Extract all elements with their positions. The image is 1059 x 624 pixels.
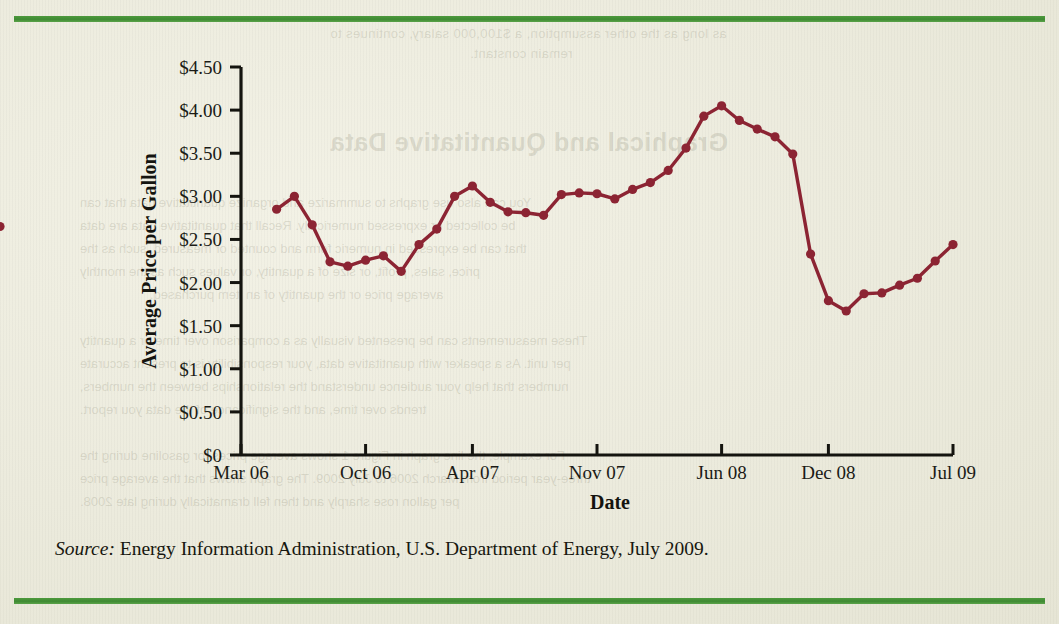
y-tick-label: $3.50 (179, 143, 222, 164)
data-point-marker (503, 207, 512, 216)
data-point-marker (486, 198, 495, 207)
data-point-marker (432, 225, 441, 234)
data-point-marker (0, 222, 5, 231)
data-point-marker (397, 267, 406, 276)
y-tick-label: $4.50 (179, 57, 222, 78)
y-axis-title: Average Price per Gallon (138, 153, 161, 368)
data-point-marker (343, 262, 352, 271)
data-point-marker (450, 192, 459, 201)
y-axis: $0$0.50$1.00$1.50$2.00$2.50$3.00$3.50$4.… (179, 57, 241, 466)
y-tick-label: $4.00 (179, 100, 222, 121)
data-point-marker (681, 143, 690, 152)
data-point-marker (557, 190, 566, 199)
data-point-marker (610, 194, 619, 203)
data-point-marker (379, 251, 388, 260)
data-point-marker (539, 211, 548, 220)
data-point-marker (948, 240, 957, 249)
y-tick-label: $1.00 (179, 359, 222, 380)
data-point-marker (664, 166, 673, 175)
data-point-marker (717, 101, 726, 110)
line-chart-figure: $0$0.50$1.00$1.50$2.00$2.50$3.00$3.50$4.… (0, 0, 1059, 624)
data-point-marker (290, 192, 299, 201)
x-axis-title: Date (590, 491, 630, 513)
data-point-marker (824, 296, 833, 305)
x-tick-label: Apr 07 (446, 462, 499, 483)
data-point-marker (859, 289, 868, 298)
x-axis: Mar 06Oct 06Apr 07Nov 07Jun 08Dec 08Jul … (213, 444, 976, 483)
x-tick-label: Dec 08 (801, 462, 855, 483)
data-point-marker (521, 208, 530, 217)
source-text: Energy Information Administration, U.S. … (115, 538, 709, 559)
y-tick-label: $2.00 (179, 273, 222, 294)
x-tick-label: Mar 06 (213, 462, 268, 483)
data-point-marker (735, 116, 744, 125)
data-point-marker (770, 132, 779, 141)
data-point-marker (592, 189, 601, 198)
data-point-marker (788, 149, 797, 158)
data-point-marker (361, 256, 370, 265)
x-tick-label: Jun 08 (697, 462, 747, 483)
data-point-marker (272, 205, 281, 214)
data-point-marker (468, 181, 477, 190)
data-point-marker (325, 257, 334, 266)
y-tick-label: $1.50 (179, 316, 222, 337)
data-point-marker (753, 124, 762, 133)
series-line (277, 106, 953, 311)
x-tick-label: Nov 07 (569, 462, 625, 483)
x-tick-label: Jul 09 (930, 462, 976, 483)
data-point-marker (308, 220, 317, 229)
data-point-marker (699, 112, 708, 121)
data-point-marker (931, 256, 940, 265)
data-point-marker (877, 288, 886, 297)
data-point-marker (414, 240, 423, 249)
data-point-marker (842, 306, 851, 315)
textbook-page: as long as the other assumption, a $100,… (0, 0, 1059, 624)
data-point-marker (895, 281, 904, 290)
chart-svg: $0$0.50$1.00$1.50$2.00$2.50$3.00$3.50$4.… (0, 0, 1059, 624)
source-note: Source: Energy Information Administratio… (55, 538, 709, 560)
data-point-marker (575, 188, 584, 197)
source-label: Source: (55, 538, 115, 559)
y-tick-label: $2.50 (179, 229, 222, 250)
data-point-marker (806, 250, 815, 259)
x-tick-label: Oct 06 (340, 462, 391, 483)
y-tick-label: $0.50 (179, 402, 222, 423)
data-point-marker (628, 185, 637, 194)
data-point-marker (646, 178, 655, 187)
y-tick-label: $3.00 (179, 186, 222, 207)
data-point-marker (913, 274, 922, 283)
